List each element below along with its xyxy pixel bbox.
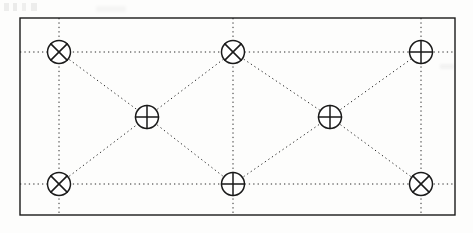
node-bottom-left[interactable] — [48, 173, 71, 196]
node-mid-right[interactable] — [319, 106, 342, 129]
node-top-left[interactable] — [48, 41, 71, 64]
node-mid-left[interactable] — [136, 106, 159, 129]
node-bottom-right[interactable] — [410, 173, 433, 196]
lattice-diagram — [0, 0, 473, 233]
node-top-right[interactable] — [410, 41, 433, 64]
node-bottom-middle[interactable] — [222, 173, 245, 196]
figure-canvas — [0, 0, 473, 233]
node-top-middle[interactable] — [222, 41, 245, 64]
